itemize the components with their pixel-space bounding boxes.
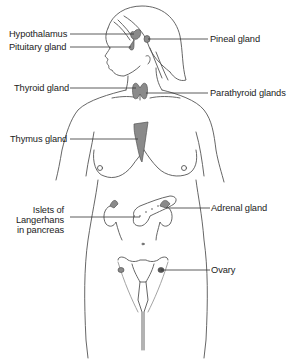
label-thymus-gland: Thymus gland [10, 134, 67, 144]
label-islets-line3: in pancreas [14, 225, 64, 235]
breast-right [144, 150, 197, 176]
breast-left [93, 150, 144, 178]
body-outline-illustration [0, 0, 287, 361]
face-outline [105, 48, 140, 76]
label-islets-line1: Islets of [14, 205, 64, 215]
kidney-left [104, 206, 122, 240]
label-parathyroid-glands: Parathyroid glands [210, 88, 286, 98]
label-pituitary-gland: Pituitary gland [9, 42, 66, 52]
label-hypothalamus: Hypothalamus [9, 29, 67, 39]
hair-outline [108, 6, 186, 81]
pancreas-outline [133, 196, 176, 226]
pituitary-gland [129, 40, 134, 50]
kidney-right [156, 206, 172, 240]
torso-right-outline [162, 90, 224, 182]
label-islets-line2: Langerhans [14, 215, 64, 225]
uterus-outline [118, 257, 168, 262]
endocrine-diagram: Hypothalamus Pituitary gland Thyroid gla… [0, 0, 287, 361]
ovary-left [118, 268, 124, 273]
label-ovary: Ovary [211, 265, 235, 275]
label-pineal-gland: Pineal gland [210, 34, 260, 44]
adrenal-gland-left [110, 200, 118, 208]
hip-right-outline [196, 180, 207, 358]
thymus-gland [134, 122, 148, 162]
hip-left-outline [85, 180, 98, 358]
label-thyroid-gland: Thyroid gland [14, 83, 69, 93]
label-adrenal-gland: Adrenal gland [211, 203, 267, 213]
